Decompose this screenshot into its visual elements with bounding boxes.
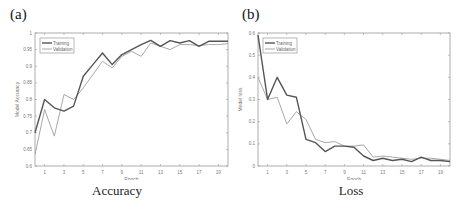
loss-caption: Loss [234,183,468,199]
x-tick-label: 11 [361,170,366,175]
x-tick-label: 7 [101,170,104,175]
loss-panel: (b) 13579111315171900.10.20.30.40.50.6Ep… [234,0,468,211]
y-tick-label: 0.4 [249,75,256,80]
accuracy-panel: (a) 1357911131517190.60.650.70.750.80.85… [0,0,234,211]
y-tick-label: 0.6 [249,31,256,36]
x-tick-label: 9 [343,170,346,175]
y-tick-label: 0.7 [26,130,33,135]
x-tick-label: 1 [43,170,46,175]
y-tick-label: 0.5 [249,53,256,58]
x-tick-label: 5 [305,170,308,175]
x-tick-label: 7 [324,170,327,175]
x-tick-label: 1 [266,170,269,175]
x-tick-label: 3 [63,170,66,175]
legend-label-validation: Validation [53,47,73,52]
y-axis-label: Model loss [237,87,243,111]
x-tick-label: 19 [438,170,444,175]
x-tick-label: 13 [380,170,386,175]
x-tick-label: 15 [177,170,183,175]
y-tick-label: 0.95 [23,47,32,52]
x-axis-label: Epoch [347,176,361,180]
y-axis-label: Model Accuracy [14,81,20,117]
loss-chart: 13579111315171900.10.20.30.40.50.6EpochM… [234,0,468,180]
y-tick-label: 0 [252,164,255,169]
x-tick-label: 15 [399,170,405,175]
x-tick-label: 19 [216,170,222,175]
y-tick-label: 0.2 [249,119,256,124]
y-tick-label: 0.8 [26,97,33,102]
y-tick-label: 0.1 [249,141,256,146]
x-tick-label: 13 [158,170,164,175]
accuracy-caption: Accuracy [0,183,234,199]
legend-label-validation: Validation [276,47,296,52]
y-tick-label: 0.3 [249,97,256,102]
y-tick-label: 0.75 [23,114,32,119]
y-tick-label: 0.6 [26,164,33,169]
y-tick-label: 0.85 [23,80,32,85]
legend-label-training: Training [276,41,293,46]
x-tick-label: 3 [286,170,289,175]
x-tick-label: 17 [197,170,203,175]
y-tick-label: 0.9 [26,64,33,69]
legend-label-training: Training [53,41,70,46]
y-tick-label: 0.65 [23,147,32,152]
x-tick-label: 11 [139,170,144,175]
x-tick-label: 5 [82,170,85,175]
x-tick-label: 17 [419,170,425,175]
x-tick-label: 9 [121,170,124,175]
accuracy-chart: 1357911131517190.60.650.70.750.80.850.90… [0,0,234,180]
x-axis-label: Epoch [124,176,138,180]
y-tick-label: 1 [29,31,32,36]
